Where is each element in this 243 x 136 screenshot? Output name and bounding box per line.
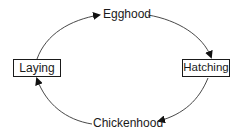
node-laying: Laying [13,59,61,77]
edge-hatching-to-chickenhood [159,78,208,121]
edge-chickenhood-to-laying [37,79,92,124]
node-hatching: Hatching [182,59,230,77]
edge-laying-to-egghood [37,15,99,59]
node-chickenhood: Chickenhood [93,117,163,129]
edge-egghood-to-hatching [148,15,211,57]
node-egghood: Egghood [103,8,151,20]
